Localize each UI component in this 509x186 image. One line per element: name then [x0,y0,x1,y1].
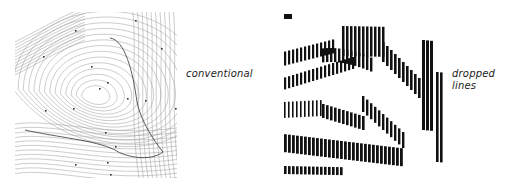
dropped-label-line-1: dropped [452,68,495,80]
dropped-lines-label: dropped lines [452,68,495,92]
conventional-contour-map [15,12,177,178]
dropped-label-line-2: lines [452,80,495,92]
conventional-label: conventional [186,68,253,80]
dropped-lines-graphic [282,12,444,178]
contour-lines-graphic [15,12,177,178]
dropped-lines-map [282,12,444,178]
